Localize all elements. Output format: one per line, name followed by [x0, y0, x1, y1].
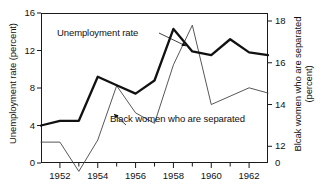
x-tick-1956: 1956 — [121, 170, 151, 181]
x-tick-1958: 1958 — [158, 170, 188, 181]
x-tick-1962: 1962 — [234, 170, 264, 181]
y-tick-right-14: 14 — [275, 99, 291, 110]
y-tick-right-0: 0 — [275, 157, 291, 168]
series-line-black-women-separated — [41, 25, 268, 171]
y-tick-right-16: 16 — [275, 57, 291, 68]
annotation-unemployment-rate: Unemployment rate — [57, 27, 138, 38]
y-tick-left-0: 0 — [19, 157, 35, 168]
annotation-black-women-separated: Black women who are separated — [110, 113, 245, 124]
y-tick-left-8: 8 — [19, 82, 35, 93]
y-tick-left-12: 12 — [19, 45, 35, 56]
y-tick-left-4: 4 — [19, 120, 35, 131]
series-line-unemployment-rate — [41, 29, 268, 126]
y-axis-right-title-line1: Blcak women who are separated — [292, 17, 303, 152]
x-tick-1954: 1954 — [83, 170, 113, 181]
y-tick-right-18: 18 — [275, 15, 291, 26]
y-axis-right-title: Blcak women who are separated (percent) — [292, 9, 314, 159]
y-tick-left-16: 16 — [19, 7, 35, 18]
chart-figure: Unemployment rate (percent) Blcak women … — [0, 0, 322, 186]
y-axis-left-title: Unemployment rate (percent) — [7, 9, 18, 159]
x-tick-1960: 1960 — [196, 170, 226, 181]
x-tick-1952: 1952 — [45, 170, 75, 181]
y-axis-right-title-line2: (percent) — [303, 9, 314, 159]
y-tick-right-12: 12 — [275, 140, 291, 151]
